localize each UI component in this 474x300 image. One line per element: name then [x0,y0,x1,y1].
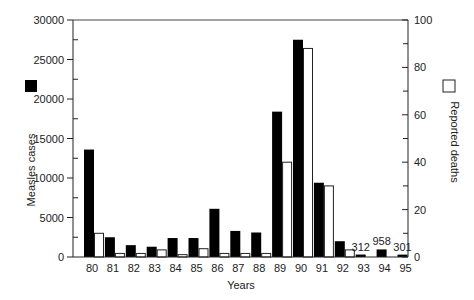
cases-bar [230,231,240,257]
x-tick-label: 84 [169,262,181,274]
cases-bar [293,40,303,257]
bar-value-annotation: 301 [393,241,411,253]
plot-area [84,40,408,257]
x-tick-label: 80 [86,262,98,274]
x-tick-label: 85 [190,262,202,274]
x-axis-title: Years [227,279,255,291]
deaths-bar [283,162,292,257]
cases-bar [84,150,94,257]
cases-bar [251,233,261,257]
left-tick-label: 25000 [33,54,64,66]
cases-bar [189,238,199,257]
right-tick-label: 20 [414,204,426,216]
right-tick-label: 100 [414,14,432,26]
x-tick-label: 81 [107,262,119,274]
x-tick-label: 94 [378,262,390,274]
measles-chart: 0500010000150002000025000300000204060801… [0,0,474,300]
left-tick-label: 15000 [33,133,64,145]
deaths-bar [199,249,208,257]
x-tick-label: 92 [337,262,349,274]
x-tick-label: 83 [149,262,161,274]
cases-bar [147,247,157,257]
right-tick-label: 0 [414,251,420,263]
cases-bar [272,112,282,257]
cases-bar [209,209,219,257]
bar-value-annotation: 958 [372,235,390,247]
deaths-bar [95,233,104,257]
left-tick-label: 20000 [33,93,64,105]
left-tick-label: 0 [58,251,64,263]
x-tick-label: 89 [274,262,286,274]
cases-bar [335,241,345,257]
deaths-bar [220,253,229,257]
cases-bar [314,183,324,257]
left-tick-label: 10000 [33,172,64,184]
x-tick-label: 87 [232,262,244,274]
x-tick-label: 86 [211,262,223,274]
cases-bar [168,238,178,257]
deaths-bar [136,253,145,257]
x-tick-label: 93 [358,262,370,274]
bar-value-annotation: 312 [352,241,370,253]
cases-bar [377,249,387,257]
cases-bar [126,245,136,257]
right-tick-label: 80 [414,61,426,73]
right-axis-title: Reported deaths [449,101,461,183]
x-tick-label: 91 [316,262,328,274]
x-tick-label: 95 [399,262,411,274]
legend-deaths-swatch [443,80,455,92]
deaths-bar [115,253,124,257]
left-tick-label: 30000 [33,14,64,26]
left-tick-label: 5000 [40,212,64,224]
left-axis-title: Measles cases [25,133,37,206]
right-tick-label: 40 [414,156,426,168]
x-tick-label: 90 [295,262,307,274]
deaths-bar [241,253,250,257]
right-tick-label: 60 [414,109,426,121]
deaths-bar [304,48,313,257]
axes [67,20,408,257]
legend-cases-swatch [25,80,37,92]
deaths-bar [324,186,333,257]
deaths-bar [262,253,271,257]
x-tick-label: 88 [253,262,265,274]
cases-bar [105,237,115,257]
x-tick-label: 82 [128,262,140,274]
deaths-bar [157,250,166,257]
